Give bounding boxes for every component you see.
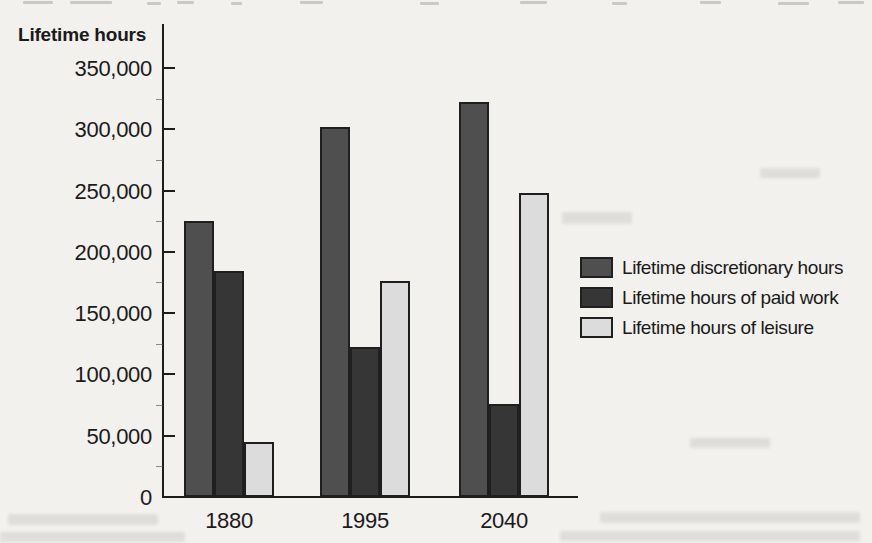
legend-swatch <box>580 287 613 308</box>
bar <box>214 271 244 497</box>
y-minor-tick <box>156 282 163 283</box>
y-minor-tick <box>156 99 163 100</box>
bar <box>320 127 350 497</box>
y-tick-label: 50,000 <box>62 424 152 450</box>
y-tick <box>163 67 175 69</box>
x-tick-label: 1880 <box>179 508 279 534</box>
bar <box>244 442 274 497</box>
y-minor-tick <box>156 160 163 161</box>
y-tick-label: 350,000 <box>62 56 152 82</box>
y-tick-label: 100,000 <box>62 362 152 388</box>
bar <box>459 102 489 497</box>
y-tick-label: 300,000 <box>62 117 152 143</box>
y-minor-tick <box>156 344 163 345</box>
bar <box>350 347 380 497</box>
y-tick <box>163 435 175 437</box>
y-tick <box>163 373 175 375</box>
bar <box>184 221 214 497</box>
y-tick-label: 150,000 <box>62 301 152 327</box>
y-minor-tick <box>156 466 163 467</box>
bar <box>519 193 549 497</box>
legend-swatch <box>580 317 613 338</box>
y-tick <box>163 251 175 253</box>
y-axis-title: Lifetime hours <box>18 24 146 46</box>
y-tick-label: 200,000 <box>62 240 152 266</box>
y-minor-tick <box>156 405 163 406</box>
y-minor-tick <box>156 221 163 222</box>
y-axis-line <box>162 24 164 498</box>
legend-label: Lifetime hours of paid work <box>622 287 838 309</box>
x-tick-label: 2040 <box>454 508 554 534</box>
bar <box>489 404 519 497</box>
legend-item: Lifetime hours of leisure <box>580 317 814 338</box>
legend-item: Lifetime hours of paid work <box>580 287 838 308</box>
x-tick-label: 1995 <box>315 508 415 534</box>
y-tick <box>163 128 175 130</box>
bar <box>380 281 410 497</box>
y-tick-label: 0 <box>62 485 152 511</box>
legend-label: Lifetime discretionary hours <box>622 257 843 279</box>
y-tick-label: 250,000 <box>62 179 152 205</box>
legend-label: Lifetime hours of leisure <box>622 317 814 339</box>
legend-swatch <box>580 257 613 278</box>
scanned-figure-page: Lifetime hours 050,000100,000150,000200,… <box>0 0 872 543</box>
y-tick <box>163 190 175 192</box>
y-tick <box>163 312 175 314</box>
legend-item: Lifetime discretionary hours <box>580 257 843 278</box>
